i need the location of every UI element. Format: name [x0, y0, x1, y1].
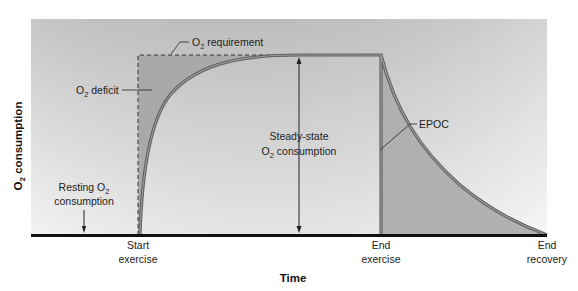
epoc-label: EPOC — [419, 118, 449, 130]
end-exercise-label-line1: End — [372, 239, 391, 251]
start-exercise-label-line2: exercise — [118, 253, 157, 265]
end-exercise-label-line2: exercise — [361, 253, 400, 265]
y-axis-title: O2 consumption — [12, 102, 27, 191]
steady-state-label-line1: Steady-state — [270, 130, 329, 142]
x-axis-title: Time — [280, 272, 307, 284]
oxygen-consumption-diagram: O2 requirement O2 deficit Steady-state O… — [0, 0, 578, 291]
end-recovery-label-line1: End — [538, 239, 557, 251]
resting-label-line2: consumption — [54, 195, 114, 207]
end-recovery-label-line2: recovery — [527, 253, 568, 265]
start-exercise-label-line1: Start — [127, 239, 149, 251]
time-axis — [31, 234, 547, 237]
